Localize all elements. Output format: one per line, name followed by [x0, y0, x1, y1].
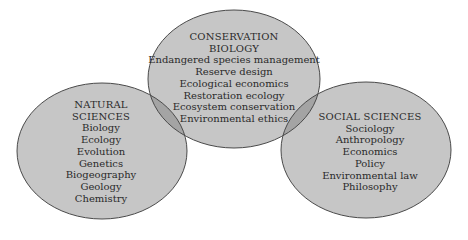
social-item: Anthropology: [319, 134, 422, 146]
conservation-item: Endangered species management: [148, 54, 320, 66]
natural-title-line-1: NATURAL: [66, 99, 137, 111]
conservation-item: Ecosystem conservation: [148, 101, 320, 113]
conservation-item: Environmental ethics: [148, 113, 320, 125]
natural-item: Biogeography: [66, 169, 137, 181]
natural-sciences-label: NATURAL SCIENCES Biology Ecology Evoluti…: [66, 99, 137, 204]
natural-item: Ecology: [66, 134, 137, 146]
conservation-title-line-2: BIOLOGY: [148, 43, 320, 55]
conservation-item: Reserve design: [148, 66, 320, 78]
natural-item: Genetics: [66, 158, 137, 170]
natural-item: Biology: [66, 122, 137, 134]
natural-item: Evolution: [66, 146, 137, 158]
social-title-line-1: SOCIAL SCIENCES: [319, 111, 422, 123]
conservation-item: Ecological economics: [148, 78, 320, 90]
conservation-item: Restoration ecology: [148, 90, 320, 102]
social-item: Sociology: [319, 123, 422, 135]
conservation-title-line-1: CONSERVATION: [148, 31, 320, 43]
natural-item: Chemistry: [66, 193, 137, 205]
social-item: Environmental law: [319, 170, 422, 182]
conservation-biology-label: CONSERVATION BIOLOGY Endangered species …: [148, 31, 320, 125]
social-item: Philosophy: [319, 181, 422, 193]
social-item: Policy: [319, 158, 422, 170]
social-item: Economics: [319, 146, 422, 158]
natural-title-line-2: SCIENCES: [66, 111, 137, 123]
natural-item: Geology: [66, 181, 137, 193]
social-sciences-label: SOCIAL SCIENCES Sociology Anthropology E…: [319, 111, 422, 193]
